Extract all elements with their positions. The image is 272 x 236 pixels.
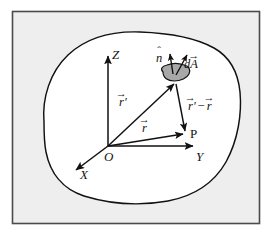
dA-vector-label: d→A: [184, 58, 198, 71]
separation-r-prime-glyph: →r: [188, 100, 193, 113]
separation-second-term: →r: [207, 100, 212, 113]
z-axis-label: Z: [112, 48, 119, 61]
dA-glyph: →A: [190, 58, 198, 71]
origin-label: O: [104, 150, 113, 163]
separation-label: →r′−→r: [188, 100, 212, 113]
figure-root: Z Y X O P →r′ →r →r′−→r ˆn d→A: [0, 0, 272, 236]
field-point-label: P: [190, 127, 197, 140]
r-label: →r: [142, 122, 147, 135]
r-glyph: →r: [142, 122, 147, 135]
separation-r-glyph: →r: [207, 100, 212, 113]
n-hat-glyph: ˆn: [156, 52, 162, 65]
diagram-canvas: [0, 0, 272, 236]
r-prime-label: →r′: [119, 96, 127, 109]
y-axis-label: Y: [196, 150, 203, 163]
normal-vector-label: ˆn: [156, 52, 162, 65]
separation-first-term: →r′: [188, 100, 196, 113]
r-prime-glyph: →r: [119, 96, 124, 109]
x-axis-label: X: [80, 168, 88, 181]
